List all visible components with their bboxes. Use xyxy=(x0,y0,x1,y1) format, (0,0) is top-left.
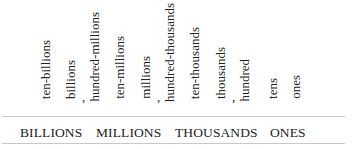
place-label-hundred: hundred xyxy=(238,59,251,102)
place-label-ten-billions: ten-billions xyxy=(39,40,52,99)
place-label-tens: tens xyxy=(266,78,279,99)
place-label-ten-millions: ten-millions xyxy=(113,36,126,99)
place-label-hundred-millions: hundred-millions xyxy=(88,12,101,102)
place-label-thousands: thousands xyxy=(214,47,227,99)
period-label-millions: MILLIONS xyxy=(96,125,161,141)
place-label-billions: billions xyxy=(64,60,77,99)
place-label-ones: ones xyxy=(289,75,302,99)
period-separator-comma: , xyxy=(157,90,160,103)
place-label-millions: millions xyxy=(139,56,152,99)
bottom-rule xyxy=(2,143,345,144)
place-label-hundred-thousands: hundred-thousands xyxy=(163,3,176,102)
top-rule xyxy=(2,116,345,117)
period-label-billions: BILLIONS xyxy=(20,125,82,141)
period-separator-comma: , xyxy=(232,90,235,103)
place-label-ten-thousands: ten-thousands xyxy=(188,27,201,99)
period-separator-comma: , xyxy=(82,90,85,103)
period-label-ones: ONES xyxy=(270,125,306,141)
period-label-thousands: THOUSANDS xyxy=(175,125,258,141)
